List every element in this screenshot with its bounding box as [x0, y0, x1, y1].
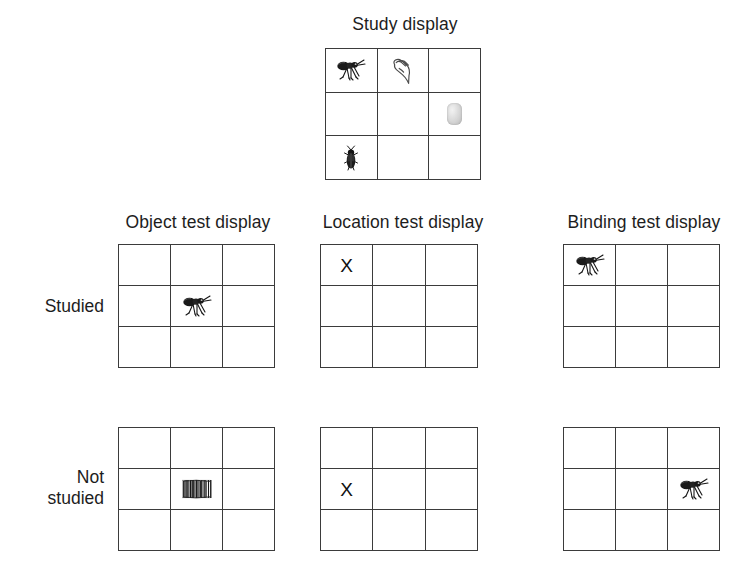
grid-cell	[326, 49, 378, 93]
grid-cell	[171, 327, 223, 368]
grid-cell	[616, 428, 668, 469]
grid-cell	[321, 286, 373, 327]
grid-cell	[378, 49, 430, 93]
accordion-icon	[182, 478, 212, 500]
grid-cell	[426, 245, 478, 286]
column-title-location: Location test display	[315, 212, 491, 233]
grid-cell	[426, 286, 478, 327]
grid-cell	[564, 510, 616, 551]
grid-cell	[564, 428, 616, 469]
grid-cell	[373, 469, 425, 510]
grid-cell: X	[321, 469, 373, 510]
grid-cell	[171, 245, 223, 286]
test-grid-studied-binding	[563, 244, 720, 368]
grid-cell	[373, 428, 425, 469]
grid-cell	[426, 469, 478, 510]
grid-cell	[321, 428, 373, 469]
grid-cell	[119, 286, 171, 327]
test-grid-not-studied-location: X	[320, 427, 478, 551]
cell-content: X	[321, 469, 372, 509]
grid-cell	[119, 469, 171, 510]
grid-cell	[426, 510, 478, 551]
grid-cell	[223, 469, 275, 510]
grid-cell	[426, 327, 478, 368]
grid-cell	[616, 469, 668, 510]
grid-cell	[429, 136, 481, 180]
grid-cell	[668, 510, 720, 551]
grid-cell	[564, 469, 616, 510]
cell-content	[326, 136, 377, 179]
grid-cell	[326, 93, 378, 137]
grid-cell	[616, 245, 668, 286]
grid-cell	[223, 428, 275, 469]
grid-cell	[668, 428, 720, 469]
blob-icon	[447, 103, 462, 125]
test-grid-studied-object	[118, 244, 275, 368]
cell-content	[668, 469, 719, 509]
beetle-icon	[343, 144, 359, 172]
grid-cell	[223, 327, 275, 368]
grid-cell	[373, 286, 425, 327]
grid-cell	[223, 510, 275, 551]
grid-cell	[564, 327, 616, 368]
grid-cell	[119, 510, 171, 551]
grid-cell	[373, 510, 425, 551]
test-grid-studied-location: X	[320, 244, 478, 368]
grid-cell	[321, 510, 373, 551]
cell-content: X	[321, 245, 372, 285]
ant-icon	[573, 251, 607, 279]
grid-cell	[616, 286, 668, 327]
test-grid-not-studied-binding	[563, 427, 720, 551]
cell-content	[564, 245, 615, 285]
grid-cell	[326, 136, 378, 180]
grid-cell	[564, 286, 616, 327]
ant-icon	[180, 292, 214, 320]
grid-cell	[171, 469, 223, 510]
cell-content	[171, 286, 222, 326]
grid-cell: X	[321, 245, 373, 286]
grid-cell	[321, 327, 373, 368]
cell-content	[171, 469, 222, 509]
grid-cell	[616, 327, 668, 368]
grid-cell	[223, 286, 275, 327]
test-grid-not-studied-object	[118, 427, 275, 551]
grid-cell	[119, 245, 171, 286]
grid-cell	[429, 93, 481, 137]
grid-cell	[426, 428, 478, 469]
x-mark: X	[340, 256, 353, 275]
grid-cell	[378, 93, 430, 137]
grid-cell	[119, 428, 171, 469]
column-title-binding: Binding test display	[558, 212, 730, 233]
grid-cell	[429, 49, 481, 93]
study-display-title: Study display	[320, 14, 490, 35]
grid-cell	[223, 245, 275, 286]
row-label-not-studied: Not studied	[0, 467, 104, 508]
grid-cell	[171, 510, 223, 551]
cell-content	[429, 93, 480, 136]
grid-cell	[616, 510, 668, 551]
ant-icon	[677, 475, 711, 503]
grid-cell	[373, 245, 425, 286]
column-title-object: Object test display	[113, 212, 283, 233]
study-display-grid	[325, 48, 481, 180]
cell-content	[378, 49, 429, 92]
hand-icon	[390, 55, 416, 85]
grid-cell	[668, 327, 720, 368]
grid-cell	[668, 245, 720, 286]
x-mark: X	[340, 480, 353, 499]
grid-cell	[378, 136, 430, 180]
grid-cell	[668, 286, 720, 327]
grid-cell	[171, 286, 223, 327]
row-label-studied: Studied	[0, 296, 104, 317]
ant-icon	[334, 56, 368, 84]
grid-cell	[171, 428, 223, 469]
grid-cell	[564, 245, 616, 286]
cell-content	[326, 49, 377, 92]
grid-cell	[119, 327, 171, 368]
grid-cell	[373, 327, 425, 368]
grid-cell	[668, 469, 720, 510]
